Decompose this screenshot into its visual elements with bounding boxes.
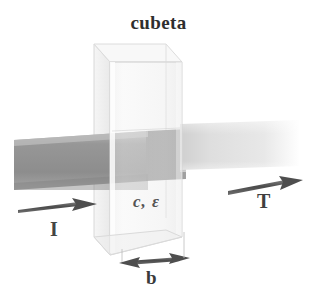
cuvette-left-highlight <box>110 62 115 253</box>
incident-arrow-shaft <box>18 202 78 213</box>
page-title: cubeta <box>0 12 317 34</box>
path-length-label: b <box>146 267 157 289</box>
cuvette-diagram-figure: cubeta c, ε I T b <box>0 0 317 304</box>
transmitted-beam <box>180 118 302 172</box>
path-length-arrow <box>119 253 190 268</box>
incident-arrow-head <box>72 198 97 211</box>
transmitted-beam-soft-edges <box>180 118 302 172</box>
diagram-canvas <box>0 0 317 304</box>
cuvette-front-face <box>110 62 182 255</box>
transmitted-beam-label: T <box>257 190 270 213</box>
sample-properties-label: c, ε <box>133 192 160 212</box>
cuvette-right-wall <box>176 62 182 237</box>
cuvette-top-face <box>94 44 182 62</box>
incident-arrow <box>18 198 97 213</box>
incident-beam-label: I <box>50 218 58 241</box>
path-length-arrow-head-right <box>169 253 190 264</box>
